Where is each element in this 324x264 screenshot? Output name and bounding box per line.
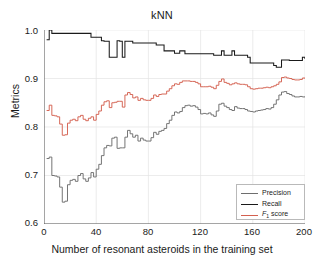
- legend-label-f1-tail: score: [269, 210, 288, 217]
- y-tick-label: 0.7: [6, 169, 38, 180]
- legend-swatch-precision: [241, 193, 258, 194]
- x-tick-label: 80: [128, 226, 168, 237]
- legend-swatch-recall: [241, 204, 258, 205]
- x-tick-label: 40: [76, 226, 116, 237]
- chart-figure: kNN Metrics Number of resonant asteroids…: [0, 0, 324, 264]
- series-line-recall: [47, 30, 305, 67]
- legend-label-recall: Recall: [262, 200, 281, 208]
- series-line-f1-score: [47, 77, 305, 135]
- x-tick-label: 200: [284, 226, 324, 237]
- y-tick-label: 0.8: [6, 121, 38, 132]
- legend-item-recall: Recall: [241, 199, 300, 209]
- legend-label-precision: Precision: [262, 189, 291, 197]
- legend-item-f1: F1 score: [241, 210, 300, 220]
- x-axis-label: Number of resonant asteroids in the trai…: [0, 243, 324, 255]
- x-tick-label: 160: [232, 226, 272, 237]
- chart-title: kNN: [0, 9, 324, 21]
- chart-legend: Precision Recall F1 score: [236, 184, 305, 220]
- y-tick-label: 0.9: [6, 73, 38, 84]
- legend-label-f1: F1 score: [262, 210, 288, 220]
- y-tick-label: 1.0: [6, 25, 38, 36]
- x-tick-label: 0: [24, 226, 64, 237]
- legend-item-precision: Precision: [241, 188, 300, 198]
- legend-swatch-f1: [241, 215, 258, 216]
- x-tick-label: 120: [180, 226, 220, 237]
- y-axis-label: Metrics: [9, 56, 21, 146]
